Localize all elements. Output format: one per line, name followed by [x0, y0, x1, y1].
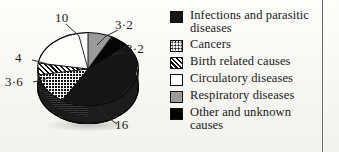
legend-item-infections-and-parasitic-diseases[interactable]: Infections and parasitic diseases [170, 9, 322, 35]
diagonal-hatch-swatch-icon [170, 57, 183, 69]
legend-item-label: Respiratory diseases [190, 89, 294, 102]
pie-label-infections-and-parasitic-diseases: 16 [115, 117, 128, 133]
pie-label-other-and-unknown-causes: 3·2 [126, 41, 144, 57]
legend-item-label: Other and unknown causes [190, 106, 322, 132]
legend-item-label: Cancers [190, 38, 231, 51]
pie-label-birth-related-causes: 4 [15, 50, 22, 66]
legend-item-other-and-unknown-causes[interactable]: Other and unknown causes [170, 106, 322, 132]
legend-item-label: Circulatory diseases [190, 72, 293, 85]
legend-item-label: Birth related causes [190, 55, 291, 68]
pie-label-cancers: 3·6 [5, 74, 23, 90]
pie-leader-lines [0, 0, 166, 152]
column-rule-divider [322, 0, 323, 152]
dotted-swatch-icon [170, 40, 183, 52]
figure-page: 10 3·2 3·2 16 3·6 4 Infections and paras… [0, 0, 339, 152]
legend-item-circulatory-diseases[interactable]: Circulatory diseases [170, 72, 322, 86]
legend-item-cancers[interactable]: Cancers [170, 38, 322, 52]
white-swatch-icon [170, 74, 183, 86]
pie-label-respiratory-diseases: 3·2 [115, 17, 133, 33]
chart-legend: Infections and parasitic diseases Cancer… [170, 9, 322, 135]
pie-label-circulatory-diseases: 10 [55, 10, 68, 26]
pie-chart: 10 3·2 3·2 16 3·6 4 [0, 0, 166, 152]
legend-item-label: Infections and parasitic diseases [190, 9, 322, 35]
dark-speckled-swatch-icon [170, 11, 183, 23]
black-swatch-icon [170, 108, 183, 120]
gray-swatch-icon [170, 91, 183, 103]
legend-item-birth-related-causes[interactable]: Birth related causes [170, 55, 322, 69]
legend-item-respiratory-diseases[interactable]: Respiratory diseases [170, 89, 322, 103]
